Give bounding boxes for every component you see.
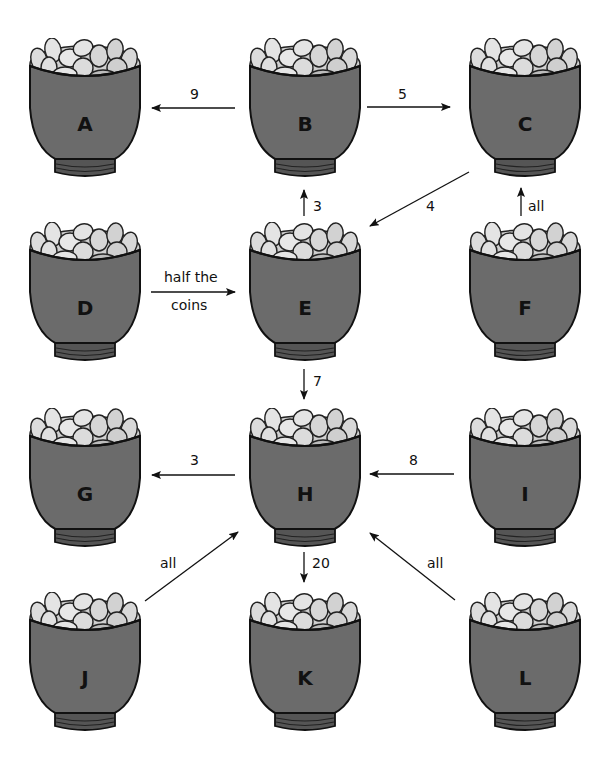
pot-label: K xyxy=(245,666,365,690)
coin-pot-g: G xyxy=(25,408,145,553)
pot-label: G xyxy=(25,482,145,506)
edge-label-h-k: 20 xyxy=(312,555,330,572)
pot-icon xyxy=(25,592,145,737)
edge-label-b-a: 9 xyxy=(190,86,199,103)
pot-label: I xyxy=(465,482,585,506)
pot-label: D xyxy=(25,296,145,320)
coin-pot-a: A xyxy=(25,38,145,183)
pot-icon xyxy=(245,222,365,367)
pot-icon xyxy=(25,38,145,183)
coin-pot-i: I xyxy=(465,408,585,553)
pot-label: E xyxy=(245,296,365,320)
pot-label: H xyxy=(245,482,365,506)
pot-icon xyxy=(245,38,365,183)
coin-pot-b: B xyxy=(245,38,365,183)
edge-label-h-g: 3 xyxy=(190,452,199,469)
coin-pot-l: L xyxy=(465,592,585,737)
edge-label-d-e-line1: half the xyxy=(164,269,218,286)
arrow-j-to-h xyxy=(145,532,238,601)
pot-icon xyxy=(465,222,585,367)
edge-label-c-e: 4 xyxy=(426,198,435,215)
edge-label-f-c: all xyxy=(528,198,544,215)
pot-icon xyxy=(245,592,365,737)
pot-icon xyxy=(465,592,585,737)
pot-label: L xyxy=(465,666,585,690)
pot-icon xyxy=(25,222,145,367)
coin-pot-d: D xyxy=(25,222,145,367)
edge-label-b-c: 5 xyxy=(398,86,407,103)
pot-label: A xyxy=(25,112,145,136)
edge-label-j-h: all xyxy=(160,555,176,572)
pot-label: C xyxy=(465,112,585,136)
coin-pot-e: E xyxy=(245,222,365,367)
edge-label-d-e-line2: coins xyxy=(171,297,207,314)
coin-pot-k: K xyxy=(245,592,365,737)
coin-pot-f: F xyxy=(465,222,585,367)
pot-icon xyxy=(25,408,145,553)
edge-label-e-b: 3 xyxy=(313,198,322,215)
pot-icon xyxy=(245,408,365,553)
arrow-c-to-e xyxy=(370,172,469,226)
coin-pot-c: C xyxy=(465,38,585,183)
pot-label: F xyxy=(465,296,585,320)
pot-icon xyxy=(465,408,585,553)
edge-label-e-h: 7 xyxy=(313,373,322,390)
pot-label: J xyxy=(25,666,145,690)
coin-pot-j: J xyxy=(25,592,145,737)
pot-icon xyxy=(465,38,585,183)
edge-label-i-h: 8 xyxy=(409,452,418,469)
coin-pot-h: H xyxy=(245,408,365,553)
edge-label-l-h: all xyxy=(427,555,443,572)
pot-label: B xyxy=(245,112,365,136)
